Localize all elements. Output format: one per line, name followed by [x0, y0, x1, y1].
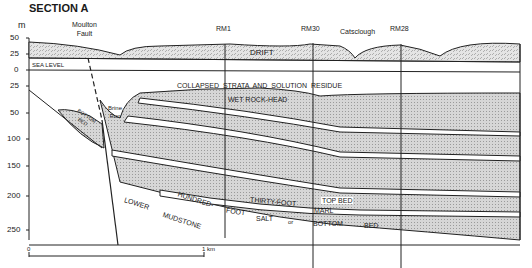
section-title: SECTION A: [29, 2, 89, 14]
tick-label: 50: [10, 108, 19, 117]
scale-end-label: 1 km: [202, 246, 215, 252]
brine-run-label: Brine Run: [108, 104, 122, 120]
top-bed-label: TOP BED: [321, 197, 353, 204]
unit-label: m: [18, 20, 26, 30]
or-label: or: [288, 219, 293, 225]
sea-level-line: [29, 70, 520, 72]
moulton-fault-label: Moulton Fault: [72, 20, 97, 38]
rm28-label: RM28: [390, 25, 409, 32]
geological-section-diagram: [0, 0, 532, 268]
scale-bar: [29, 252, 204, 257]
tick-label: 100: [7, 134, 20, 143]
rm1-label: RM1: [216, 25, 231, 32]
marl-label: MARL: [314, 207, 333, 214]
rm30-label: RM30: [301, 25, 320, 32]
tick-label: 150: [7, 161, 20, 170]
wet-rock-head-label: WET ROCK-HEAD: [228, 96, 287, 103]
tick-label: 200: [7, 191, 20, 200]
scale-start-label: 0: [27, 246, 30, 252]
tick-label: 25: [10, 49, 19, 58]
tick-label: 25: [10, 81, 19, 90]
tick-label: 50: [10, 33, 19, 42]
depth-axis: [26, 38, 29, 240]
sea-level-label: SEA LEVEL: [32, 62, 64, 68]
tick-label: 0: [14, 65, 18, 74]
tick-label: 250: [7, 225, 20, 234]
bed-label: BED: [364, 222, 378, 229]
bottom-label: BOTTOM: [313, 220, 343, 227]
salt-label: SALT: [256, 215, 273, 222]
collapsed-strata-label: COLLAPSED STRATA AND SOLUTION RESIDUE: [177, 82, 342, 89]
moulton-fault-line: [88, 58, 102, 120]
drift-label: DRIFT: [250, 48, 274, 57]
catsclough-label: Catsclough: [340, 28, 375, 35]
